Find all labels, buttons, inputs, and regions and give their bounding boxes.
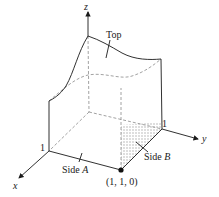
side-a-letter: A — [82, 164, 88, 175]
x-tick-1: 1 — [40, 143, 45, 153]
x-axis — [19, 151, 49, 178]
top-left-curve — [49, 36, 88, 101]
solid-region-diagram: z x y 1 1 Top Side A Side B (1, 1, 0) — [0, 0, 219, 197]
side-b-word: Side — [144, 151, 162, 162]
side-a-word: Side — [62, 164, 80, 175]
top-right-curve — [88, 36, 161, 59]
point-1-1-0-marker — [118, 167, 123, 172]
point-1-1-0-label: (1, 1, 0) — [106, 177, 138, 187]
y-axis — [162, 129, 198, 139]
top-label: Top — [106, 30, 121, 40]
visible-edges — [49, 36, 162, 170]
side-a-label: Side A — [62, 165, 88, 175]
side-b-label: Side B — [144, 152, 170, 162]
x-axis-label: x — [13, 181, 17, 191]
y-tick-1: 1 — [162, 119, 167, 129]
side-b-letter: B — [164, 151, 170, 162]
z-axis-label: z — [84, 2, 88, 12]
y-axis-label: y — [202, 134, 206, 144]
